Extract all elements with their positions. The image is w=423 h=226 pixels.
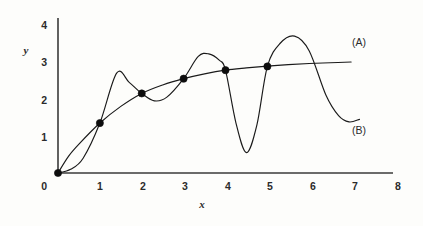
y-tick-label-0: 0 (41, 180, 47, 192)
chart-svg: 4 3 2 1 0 1 2 3 4 5 6 7 8 y x (A) (B) (0, 0, 423, 226)
y-tick-label-1: 1 (41, 131, 47, 143)
x-tick-label-3: 3 (182, 180, 188, 192)
x-tick-label-7: 7 (352, 180, 358, 192)
x-tick-label-1: 1 (97, 180, 103, 192)
chart-figure: 4 3 2 1 0 1 2 3 4 5 6 7 8 y x (A) (B) (0, 0, 423, 226)
x-tick-label-5: 5 (267, 180, 273, 192)
x-tick-label-8: 8 (395, 180, 401, 192)
x-tick-label-6: 6 (310, 180, 316, 192)
curve-b-path (58, 36, 360, 173)
data-point-marker (222, 67, 229, 74)
x-axis-title: x (198, 198, 205, 210)
y-tick-label-4: 4 (41, 19, 47, 31)
data-point-marker (138, 90, 145, 97)
x-tick-label-4: 4 (225, 180, 231, 192)
data-point-marker (264, 63, 271, 70)
data-point-markers (54, 63, 271, 177)
y-axis-title: y (22, 44, 29, 56)
data-point-marker (96, 119, 103, 126)
y-tick-label-2: 2 (41, 94, 47, 106)
series-label-b: (B) (352, 124, 366, 136)
data-point-marker (54, 169, 61, 176)
data-point-marker (180, 75, 187, 82)
series-label-a: (A) (352, 36, 366, 48)
y-tick-label-3: 3 (41, 56, 47, 68)
x-tick-label-2: 2 (140, 180, 146, 192)
